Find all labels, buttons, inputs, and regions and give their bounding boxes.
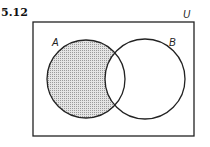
universe-label: U <box>183 9 191 20</box>
venn-diagram: A B U <box>0 0 210 147</box>
set-a-label: A <box>51 37 59 48</box>
set-b-label: B <box>169 37 176 48</box>
